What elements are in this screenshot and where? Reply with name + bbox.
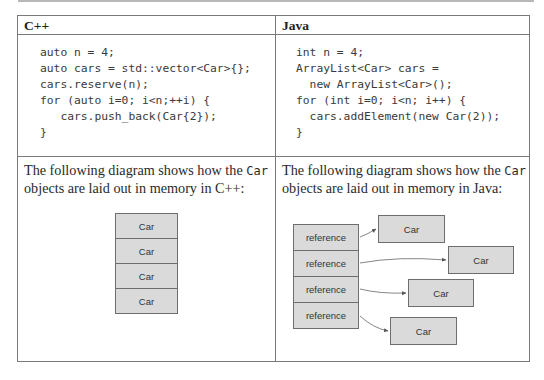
arrow-icon — [360, 229, 376, 237]
arrow-icon — [360, 259, 446, 263]
arrow-icon — [360, 289, 406, 293]
comparison-table: C++ auto n = 4; auto cars = std::vector<… — [17, 15, 530, 362]
top-rule — [18, 0, 534, 2]
reference-arrows — [18, 16, 531, 363]
arrow-icon — [360, 316, 388, 331]
